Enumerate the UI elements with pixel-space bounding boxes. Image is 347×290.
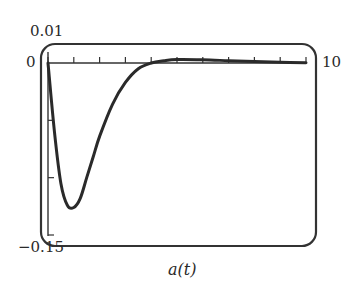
- y-tick-label-bottom: −0.15: [18, 240, 64, 255]
- series-line-a-t: [48, 60, 306, 209]
- x-axis-title: a(t): [168, 262, 196, 278]
- plot-frame: [41, 44, 316, 246]
- x-tick-label-max: 10: [322, 55, 341, 70]
- y-ticks: [48, 120, 54, 235]
- y-tick-label-top: 0.01: [30, 24, 63, 39]
- y-tick-label-zero: 0: [26, 55, 36, 70]
